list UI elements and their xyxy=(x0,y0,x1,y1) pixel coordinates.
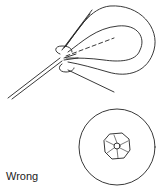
side-view-drawing xyxy=(8,6,155,99)
outer-circle xyxy=(79,109,155,185)
center-hole xyxy=(114,143,120,149)
cross-section-drawing xyxy=(79,109,155,185)
wrong-loop-illustration xyxy=(0,0,160,192)
diagram-figure: Wrong xyxy=(0,0,160,192)
figure-caption: Wrong xyxy=(6,170,38,182)
inner-bundle xyxy=(104,133,130,159)
